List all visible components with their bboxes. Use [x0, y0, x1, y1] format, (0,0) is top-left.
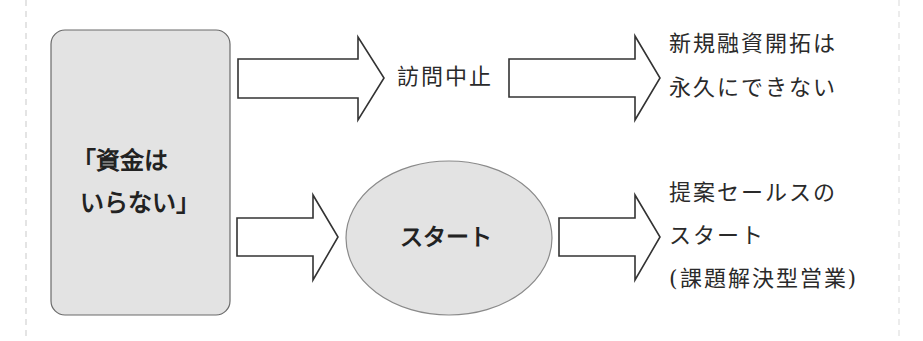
- proposal-sales-text: 提案セールスの スタート (課題解決型営業): [669, 171, 858, 300]
- arrow-to-no-new-loans: [509, 36, 660, 120]
- proposal-sales-line-1: 提案セールスの: [669, 171, 858, 214]
- proposal-sales-line-2: スタート: [669, 214, 858, 257]
- no-new-loans-line-1: 新規融資開拓は: [669, 22, 837, 66]
- proposal-sales-line-3: (課題解決型営業): [669, 257, 858, 300]
- no-new-loans-line-2: 永久にできない: [669, 66, 837, 110]
- start-label: スタート: [400, 222, 492, 252]
- visit-stop-label: 訪問中止: [397, 63, 493, 91]
- arrow-to-proposal-sales: [559, 195, 660, 280]
- diagram-canvas: 「資金は いらない」 訪問中止 新規融資開拓は 永久にできない スタート 提案セ…: [0, 0, 923, 341]
- source-box-line-1: 「資金は: [72, 140, 200, 182]
- arrow-to-start: [237, 195, 338, 280]
- source-box-line-2: いらない」: [72, 182, 200, 224]
- arrow-to-visit-stop: [238, 37, 384, 120]
- source-box-text: 「資金は いらない」: [72, 140, 200, 224]
- no-new-loans-text: 新規融資開拓は 永久にできない: [669, 22, 837, 110]
